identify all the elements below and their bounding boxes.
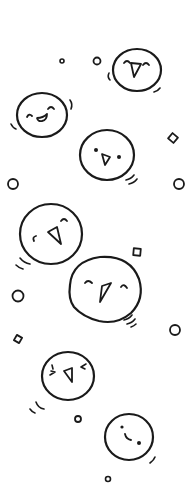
- face-outline: [70, 257, 141, 322]
- motion-line-icon: [108, 73, 110, 80]
- face-outline: [105, 414, 153, 460]
- closed-eye-right-icon: [121, 285, 127, 288]
- beak-icon: [64, 368, 72, 382]
- closed-eye-left-icon: [33, 236, 36, 241]
- motion-line-icon: [70, 100, 72, 109]
- confetti-circle-icon: [174, 179, 184, 189]
- closed-eye-right-icon: [143, 63, 149, 65]
- grin-mouth-icon: [37, 114, 47, 121]
- motion-line-icon: [150, 457, 155, 463]
- confetti-diamonds: [14, 133, 178, 343]
- dot-eye-right-icon: [117, 155, 121, 159]
- confetti-circle-icon: [60, 59, 64, 63]
- confetti-circle-icon: [8, 179, 18, 189]
- smiley-face-6: [30, 352, 94, 413]
- motion-line-icon: [11, 124, 16, 129]
- motion-line-icon: [30, 409, 35, 413]
- squint-eye-left-icon: [50, 365, 55, 375]
- face-outline: [17, 93, 67, 137]
- smile-mouth-icon: [125, 434, 131, 440]
- motion-line-icon: [154, 88, 160, 92]
- smiley-face-5: [70, 257, 141, 327]
- beak-icon: [100, 283, 111, 302]
- closed-eye-left-icon: [124, 61, 130, 63]
- confetti-diamond-icon: [14, 335, 22, 343]
- beak-icon: [48, 227, 61, 244]
- confetti-diamond-icon: [168, 133, 178, 143]
- smiley-face-2: [11, 93, 72, 137]
- smiley-face-7: [105, 414, 155, 463]
- doodle-canvas: [0, 0, 196, 501]
- motion-line-icon: [131, 324, 136, 327]
- confetti-diamond-icon: [133, 248, 141, 256]
- squint-eye-right-icon: [81, 364, 86, 369]
- dot-eye-left-icon: [94, 148, 98, 152]
- dot-eye-right-icon: [137, 441, 141, 445]
- motion-line-icon: [36, 402, 44, 409]
- closed-eye-left-icon: [85, 281, 92, 283]
- closed-eye-right-icon: [48, 107, 54, 109]
- smiley-face-4: [16, 204, 82, 269]
- closed-eye-right-icon: [61, 219, 67, 221]
- confetti-circle-icon: [75, 416, 81, 422]
- dot-eye-left-icon: [120, 425, 123, 428]
- smiley-face-1: [108, 49, 161, 92]
- confetti-circle-icon: [106, 477, 111, 482]
- motion-line-icon: [127, 319, 135, 324]
- open-mouth-icon: [102, 154, 110, 165]
- motion-line-icon: [20, 258, 30, 264]
- motion-line-icon: [16, 265, 23, 269]
- motion-line-icon: [129, 179, 137, 184]
- confetti-circle-icon: [170, 325, 180, 335]
- confetti-circle-icon: [13, 291, 24, 302]
- confetti-circle-icon: [94, 58, 101, 65]
- smiley-face-3: [80, 130, 137, 184]
- closed-eye-left-icon: [27, 115, 32, 117]
- beak-icon: [131, 63, 141, 77]
- confetti-circles: [8, 58, 184, 482]
- motion-line-icon: [126, 175, 134, 180]
